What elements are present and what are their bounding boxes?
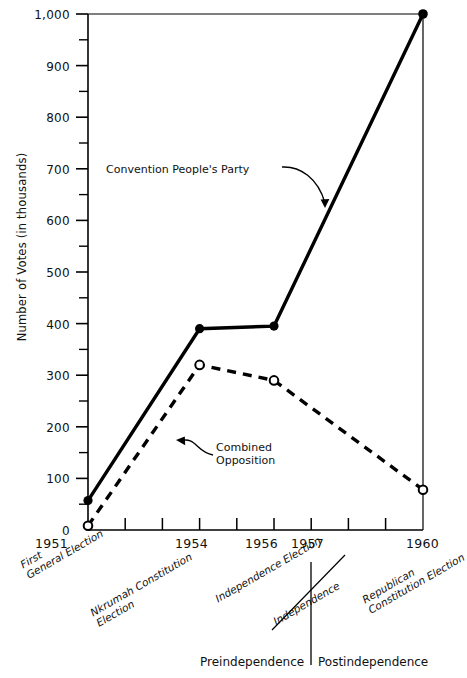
- series-markers-combined-opposition: [84, 361, 428, 530]
- series-line-combined-opposition: [88, 365, 423, 526]
- x-axis-ticks: [125, 518, 385, 530]
- series-line-convention-peoples-party: [88, 14, 423, 501]
- cpp-annotation-arrow: [282, 167, 329, 208]
- independence-underline: [272, 555, 345, 630]
- opposition-annotation-arrow: [176, 436, 213, 455]
